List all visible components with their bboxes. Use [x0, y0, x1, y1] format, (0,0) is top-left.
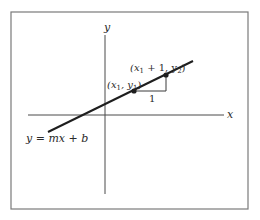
x-axis-label: x	[227, 108, 234, 121]
p1-mid: , y	[121, 79, 133, 90]
run-label: 1	[149, 93, 155, 104]
y-axis-label: y	[103, 21, 111, 34]
p2-close: )	[182, 62, 186, 73]
p2-mid: + 1, y	[144, 62, 177, 73]
figure-frame	[11, 12, 248, 209]
p1-close: )	[138, 79, 142, 90]
equation-label: y = mx + b	[25, 132, 88, 145]
coordinate-plane-diagram: x y 1 (x1, y1) (x1 + 1, y2) y = mx + b	[0, 0, 260, 220]
point-x1plus1-y2	[163, 72, 168, 77]
p1-open: (x	[107, 79, 117, 90]
p2-open: (x	[130, 62, 140, 73]
